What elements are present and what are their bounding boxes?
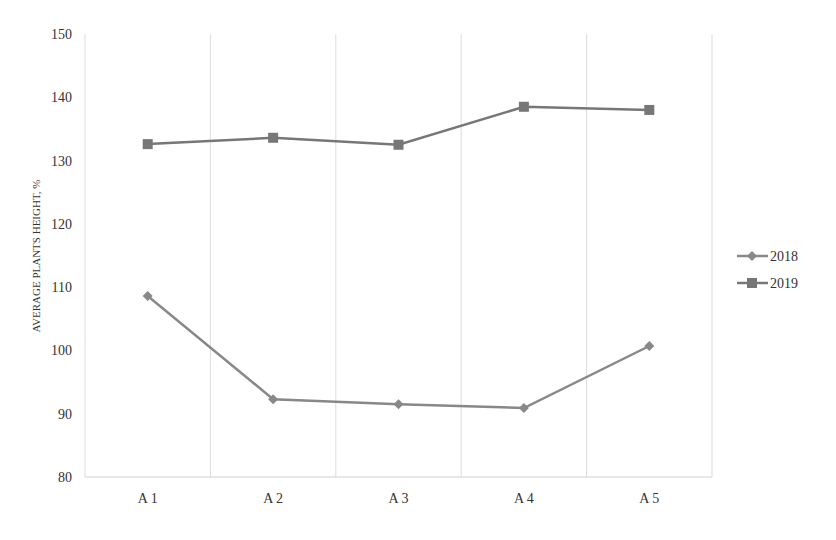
y-tick-label: 90 bbox=[58, 407, 72, 422]
y-tick-label: 80 bbox=[58, 470, 72, 485]
x-tick-label: A 3 bbox=[389, 491, 409, 506]
series-lines bbox=[143, 102, 655, 413]
diamond-marker bbox=[644, 341, 654, 351]
y-tick-label: 150 bbox=[51, 27, 72, 42]
square-marker bbox=[644, 105, 654, 115]
square-marker bbox=[747, 278, 757, 288]
series-line bbox=[148, 296, 650, 408]
x-tick-label: A 1 bbox=[138, 491, 158, 506]
legend: 20182019 bbox=[737, 249, 798, 291]
legend-label: 2019 bbox=[770, 276, 798, 291]
x-tick-label: A 5 bbox=[639, 491, 659, 506]
y-tick-label: 100 bbox=[51, 343, 72, 358]
x-axis-ticks: A 1A 2A 3A 4A 5 bbox=[138, 491, 660, 506]
series-2019 bbox=[143, 102, 655, 150]
y-axis-ticks: 8090100110120130140150 bbox=[51, 27, 72, 485]
gridlines bbox=[85, 34, 712, 477]
y-axis-label: AVERAGE PLANTS HEIGHT, % bbox=[30, 180, 42, 333]
y-tick-label: 110 bbox=[52, 280, 72, 295]
diamond-marker bbox=[519, 403, 529, 413]
y-tick-label: 140 bbox=[51, 90, 72, 105]
square-marker bbox=[519, 102, 529, 112]
series-2018 bbox=[143, 291, 655, 413]
legend-item-2019: 2019 bbox=[737, 276, 798, 291]
line-chart: 8090100110120130140150 A 1A 2A 3A 4A 5 A… bbox=[0, 0, 836, 540]
diamond-marker bbox=[747, 251, 757, 261]
legend-item-2018: 2018 bbox=[737, 249, 798, 264]
x-tick-label: A 4 bbox=[514, 491, 534, 506]
y-tick-label: 130 bbox=[51, 154, 72, 169]
y-tick-label: 120 bbox=[51, 217, 72, 232]
diamond-marker bbox=[394, 399, 404, 409]
square-marker bbox=[143, 139, 153, 149]
x-tick-label: A 2 bbox=[263, 491, 283, 506]
series-line bbox=[148, 107, 650, 145]
square-marker bbox=[394, 140, 404, 150]
legend-label: 2018 bbox=[770, 249, 798, 264]
square-marker bbox=[268, 133, 278, 143]
